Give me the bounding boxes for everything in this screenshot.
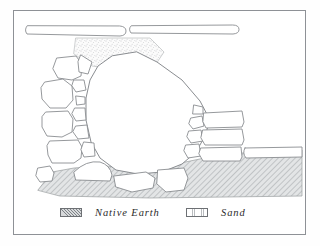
left-stone-1 (53, 56, 82, 80)
right-chink-1 (189, 116, 204, 129)
left-chink-3 (76, 96, 85, 105)
figure-canvas: Native Earth Sand (0, 0, 320, 246)
sand-swatch-icon (186, 208, 208, 217)
right-block-3 (199, 147, 242, 161)
legend-label-sand: Sand (221, 207, 246, 218)
legend: Native Earth Sand (13, 204, 306, 230)
legend-item-native-earth: Native Earth (60, 207, 160, 218)
right-chink-2 (187, 130, 203, 143)
left-chink-4 (72, 108, 86, 121)
upper-left-slab (26, 26, 127, 36)
right-block-2 (201, 129, 244, 145)
left-chink-6 (81, 142, 95, 157)
legend-label-native-earth: Native Earth (95, 207, 160, 218)
right-chink-3 (184, 144, 201, 158)
left-chink-5 (73, 125, 89, 139)
native-earth-swatch-icon (60, 208, 82, 217)
lower-right-slab (244, 147, 302, 158)
left-stone-4 (47, 140, 82, 163)
right-chink-4 (193, 105, 203, 114)
left-stone-3 (42, 111, 73, 137)
right-block-1 (203, 111, 244, 128)
legend-item-sand: Sand (186, 207, 246, 218)
left-chink-2 (72, 80, 86, 92)
left-stone-5 (36, 166, 54, 182)
upper-right-slab (130, 25, 240, 34)
left-stone-2 (41, 79, 73, 108)
base-stone-1 (74, 162, 112, 181)
base-stone-3 (157, 168, 188, 192)
